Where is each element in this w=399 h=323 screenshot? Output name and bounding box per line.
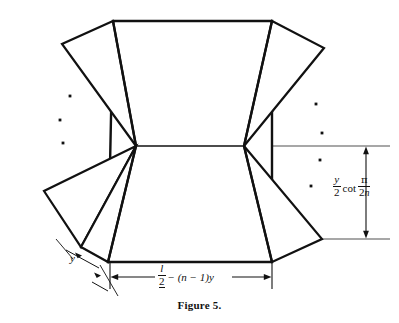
denominator-underlined-2: 2 <box>159 276 165 288</box>
ellipsis-dot-right-3 <box>319 159 322 162</box>
fraction-numerator-l: l <box>158 263 166 274</box>
edge-dimension-label-y: y <box>70 253 75 264</box>
fraction-denominator-2n: 2n <box>358 187 371 198</box>
figure-caption: Figure 5. <box>0 299 399 311</box>
fraction-denominator-2: 2 <box>333 187 341 198</box>
width-expression-remainder: − (n − 1)y <box>166 271 214 283</box>
fraction-numerator-pi: π <box>358 175 371 185</box>
height-dimension-label: y 2 cot π 2n <box>333 174 370 198</box>
denominator-variable-n: n <box>364 187 369 198</box>
fraction-denominator-2-width: 2 <box>158 276 166 288</box>
ellipsis-dot-right-1 <box>315 103 318 106</box>
ellipsis-dot-right-4 <box>310 185 313 188</box>
y-over-2-fraction: y 2 <box>333 174 341 198</box>
width-dimension-label: l 2 − (n − 1)y <box>158 263 214 288</box>
ellipsis-dot-left-2 <box>59 119 62 122</box>
ellipsis-dot-left-3 <box>62 142 65 145</box>
ellipsis-dot-left-1 <box>69 95 72 98</box>
l-over-2-fraction: l 2 <box>158 263 166 288</box>
ellipsis-dot-right-2 <box>321 132 324 135</box>
figure-container: y 2 cot π 2n l 2 − (n − 1)y y Figure 5. <box>0 0 399 323</box>
pi-over-2n-fraction: π 2n <box>358 175 371 198</box>
cot-operator: cot <box>341 182 358 194</box>
fraction-numerator-y: y <box>333 174 341 185</box>
